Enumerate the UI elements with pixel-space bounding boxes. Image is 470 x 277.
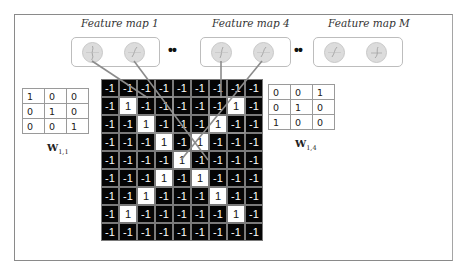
kernel-cell: 0 xyxy=(67,89,89,104)
kernel-cell: 0 xyxy=(291,115,313,130)
grid-cell: -1 xyxy=(155,205,173,223)
grid-cell: -1 xyxy=(209,97,227,115)
grid-cell: 1 xyxy=(119,205,137,223)
grid-cell: -1 xyxy=(245,115,263,133)
grid-cell: -1 xyxy=(245,223,263,241)
grid-cell: -1 xyxy=(119,79,137,97)
grid-cell: -1 xyxy=(101,115,119,133)
kernel-cell: 0 xyxy=(45,89,67,104)
grid-cell: 1 xyxy=(119,97,137,115)
grid-cell: -1 xyxy=(245,133,263,151)
grid-cell: -1 xyxy=(191,151,209,169)
grid-cell: -1 xyxy=(227,79,245,97)
grid-cell: -1 xyxy=(101,133,119,151)
kernel-w11-table: 100010001 xyxy=(22,88,89,134)
neuron-icon xyxy=(324,42,345,63)
kernel-cell: 0 xyxy=(291,85,313,100)
grid-cell: 1 xyxy=(209,187,227,205)
grid-cell: -1 xyxy=(209,151,227,169)
neuron-icon xyxy=(366,42,387,63)
kernel-cell: 0 xyxy=(269,85,291,100)
grid-cell: -1 xyxy=(137,79,155,97)
grid-cell: -1 xyxy=(119,115,137,133)
grid-cell: -1 xyxy=(191,223,209,241)
grid-cell: -1 xyxy=(101,79,119,97)
ellipsis-dots: •• xyxy=(168,42,176,58)
grid-cell: -1 xyxy=(101,97,119,115)
kernel-cell: 0 xyxy=(313,100,335,115)
grid-cell: -1 xyxy=(245,169,263,187)
ellipsis-dots: •• xyxy=(294,42,302,58)
grid-cell: -1 xyxy=(245,187,263,205)
grid-cell: 1 xyxy=(227,97,245,115)
grid-cell: -1 xyxy=(191,187,209,205)
grid-cell: -1 xyxy=(173,79,191,97)
feature-map-1 xyxy=(71,37,160,67)
grid-cell: -1 xyxy=(137,97,155,115)
kernel-cell: 0 xyxy=(269,100,291,115)
grid-cell: -1 xyxy=(173,133,191,151)
neuron-icon xyxy=(253,42,274,63)
grid-cell: -1 xyxy=(101,151,119,169)
feature-map-m xyxy=(313,37,403,67)
grid-cell: -1 xyxy=(155,223,173,241)
grid-cell: -1 xyxy=(137,151,155,169)
grid-cell: -1 xyxy=(191,79,209,97)
grid-cell: 1 xyxy=(155,169,173,187)
grid-cell: -1 xyxy=(173,187,191,205)
grid-cell: 1 xyxy=(227,205,245,223)
grid-cell: -1 xyxy=(101,169,119,187)
grid-cell: -1 xyxy=(119,187,137,205)
feature-map-m-title: Feature map M xyxy=(328,17,410,29)
neuron-icon xyxy=(211,42,232,63)
grid-cell: -1 xyxy=(101,205,119,223)
grid-cell: -1 xyxy=(137,205,155,223)
grid-cell: -1 xyxy=(119,133,137,151)
grid-cell: -1 xyxy=(155,115,173,133)
grid-cell: -1 xyxy=(155,187,173,205)
grid-cell: -1 xyxy=(245,205,263,223)
grid-cell: -1 xyxy=(191,115,209,133)
grid-cell: -1 xyxy=(137,223,155,241)
grid-cell: -1 xyxy=(227,223,245,241)
kernel-cell: 1 xyxy=(269,115,291,130)
grid-cell: 1 xyxy=(173,151,191,169)
grid-cell: -1 xyxy=(245,97,263,115)
kernel-cell: 1 xyxy=(291,100,313,115)
grid-cell: 1 xyxy=(137,115,155,133)
grid-cell: -1 xyxy=(245,151,263,169)
neuron-icon xyxy=(124,42,145,63)
grid-cell: -1 xyxy=(173,169,191,187)
input-image-grid: -1-1-1-1-1-1-1-1-1-11-1-1-1-1-11-1-1-11-… xyxy=(101,79,263,241)
feature-map-1-title: Feature map 1 xyxy=(81,17,159,29)
grid-cell: -1 xyxy=(155,97,173,115)
grid-cell: 1 xyxy=(137,187,155,205)
grid-cell: -1 xyxy=(227,187,245,205)
grid-cell: -1 xyxy=(191,205,209,223)
kernel-w11-label: W1,1 xyxy=(47,142,69,156)
kernel-cell: 0 xyxy=(67,104,89,119)
grid-cell: -1 xyxy=(191,97,209,115)
kernel-cell: 0 xyxy=(45,119,67,134)
grid-cell: -1 xyxy=(155,151,173,169)
feature-map-4-title: Feature map 4 xyxy=(212,17,290,29)
grid-cell: 1 xyxy=(209,115,227,133)
feature-map-4 xyxy=(200,37,291,67)
grid-cell: -1 xyxy=(227,133,245,151)
grid-cell: -1 xyxy=(155,79,173,97)
grid-cell: -1 xyxy=(173,115,191,133)
grid-cell: 1 xyxy=(155,133,173,151)
grid-cell: -1 xyxy=(119,223,137,241)
grid-cell: -1 xyxy=(209,133,227,151)
kernel-cell: 0 xyxy=(23,104,45,119)
kernel-w14-label: W1,4 xyxy=(295,138,317,152)
neuron-icon xyxy=(82,42,103,63)
kernel-cell: 1 xyxy=(23,89,45,104)
kernel-cell: 0 xyxy=(23,119,45,134)
grid-cell: -1 xyxy=(137,133,155,151)
grid-cell: -1 xyxy=(245,79,263,97)
grid-cell: -1 xyxy=(227,151,245,169)
grid-cell: -1 xyxy=(209,223,227,241)
grid-cell: -1 xyxy=(209,205,227,223)
kernel-cell: 1 xyxy=(45,104,67,119)
